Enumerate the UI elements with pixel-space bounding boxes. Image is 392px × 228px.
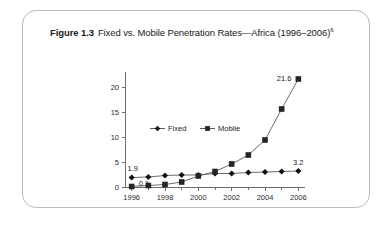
x-axis-ticks: 199619982000200220042006 bbox=[123, 187, 306, 202]
marker-fixed bbox=[245, 169, 251, 175]
marker-mobile bbox=[279, 106, 285, 112]
svg-text:1998: 1998 bbox=[157, 193, 174, 202]
svg-text:15: 15 bbox=[111, 108, 119, 117]
marker-fixed bbox=[262, 169, 268, 175]
figure-footnote-marker: 6 bbox=[330, 27, 333, 33]
svg-text:0: 0 bbox=[115, 183, 119, 192]
marker-mobile bbox=[129, 184, 135, 190]
svg-text:20: 20 bbox=[111, 83, 119, 92]
figure-card: Figure 1.3Fixed vs. Mobile Penetration R… bbox=[22, 10, 370, 208]
penetration-rates-line-chart: 05101520 199619982000200220042006 1.90.1… bbox=[83, 59, 313, 209]
marker-fixed bbox=[229, 170, 235, 176]
chart-container: 05101520 199619982000200220042006 1.90.1… bbox=[83, 59, 313, 209]
marker-mobile bbox=[179, 179, 185, 185]
marker-mobile bbox=[262, 137, 268, 143]
figure-title: Fixed vs. Mobile Penetration Rates—Afric… bbox=[98, 27, 330, 38]
legend-label-mobile: Mobile bbox=[218, 124, 240, 133]
point-label: 0.1 bbox=[139, 179, 149, 188]
marker-fixed bbox=[129, 174, 135, 180]
marker-mobile bbox=[212, 169, 218, 175]
legend-marker-mobile bbox=[205, 126, 210, 131]
svg-text:2000: 2000 bbox=[190, 193, 207, 202]
marker-mobile bbox=[229, 161, 235, 167]
data-series-group bbox=[129, 76, 302, 189]
marker-mobile bbox=[296, 76, 302, 82]
marker-mobile bbox=[162, 182, 168, 188]
svg-text:2002: 2002 bbox=[223, 193, 240, 202]
svg-text:1996: 1996 bbox=[123, 193, 140, 202]
chart-legend: FixedMobile bbox=[150, 124, 240, 133]
point-label: 3.2 bbox=[293, 158, 303, 167]
svg-text:2006: 2006 bbox=[290, 193, 307, 202]
marker-mobile bbox=[246, 152, 252, 158]
y-axis-ticks: 05101520 bbox=[111, 83, 125, 192]
marker-mobile bbox=[196, 173, 202, 179]
marker-fixed bbox=[295, 168, 301, 174]
svg-text:10: 10 bbox=[111, 133, 119, 142]
point-label: 21.6 bbox=[277, 74, 292, 83]
svg-text:5: 5 bbox=[115, 158, 119, 167]
marker-fixed bbox=[279, 168, 285, 174]
legend-label-fixed: Fixed bbox=[168, 124, 186, 133]
marker-fixed bbox=[162, 172, 168, 178]
point-label: 1.9 bbox=[127, 164, 137, 173]
svg-text:2004: 2004 bbox=[257, 193, 274, 202]
figure-label: Figure 1.3 bbox=[50, 27, 94, 38]
legend-marker-fixed bbox=[155, 126, 161, 132]
marker-fixed bbox=[179, 172, 185, 178]
figure-caption: Figure 1.3Fixed vs. Mobile Penetration R… bbox=[50, 27, 333, 38]
